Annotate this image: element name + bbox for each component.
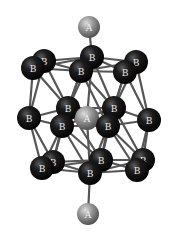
atom-label: A — [83, 114, 91, 124]
atom-label: B — [30, 64, 37, 74]
atom-label: B — [134, 166, 141, 176]
atom-a: A — [77, 203, 99, 225]
atom-b: B — [17, 106, 41, 130]
atom-b: B — [137, 108, 161, 132]
atom-label: A — [85, 23, 93, 33]
atom-a: A — [75, 106, 99, 130]
atom-b: B — [96, 114, 120, 138]
atom-label: B — [98, 156, 105, 166]
atom-label: B — [146, 116, 153, 126]
atom-a: A — [78, 16, 100, 38]
atom-b: B — [50, 114, 74, 138]
atom-label: B — [122, 68, 129, 78]
atom-label: B — [39, 164, 46, 174]
atom-label: B — [89, 53, 96, 63]
atom-b: B — [113, 60, 137, 84]
atom-label: B — [26, 114, 33, 124]
atom-label: B — [111, 104, 118, 114]
atom-label: B — [59, 122, 66, 132]
atom-label: B — [78, 67, 85, 77]
molecular-diagram: ABBBBBBBBBABBBBBBBBBA — [0, 0, 172, 241]
atom-label: B — [65, 104, 72, 114]
atom-b: B — [30, 156, 54, 180]
atom-b: B — [69, 59, 93, 83]
atom-b: B — [125, 158, 149, 182]
atom-label: A — [84, 210, 92, 220]
atom-b: B — [21, 56, 45, 80]
atom-b: B — [78, 161, 102, 185]
atom-label: B — [87, 169, 94, 179]
atom-label: B — [105, 122, 112, 132]
